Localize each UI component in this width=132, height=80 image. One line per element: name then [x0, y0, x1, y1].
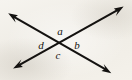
line-lower-left-to-upper-right	[13, 7, 124, 69]
vertical-angles-figure: a b c d	[0, 0, 132, 80]
line-2-shaft	[19, 10, 119, 66]
angle-label-b: b	[74, 40, 80, 51]
angle-label-a: a	[57, 26, 63, 37]
intersecting-lines-diagram	[0, 0, 132, 80]
angle-label-d: d	[38, 40, 44, 51]
angle-label-c: c	[56, 50, 61, 61]
